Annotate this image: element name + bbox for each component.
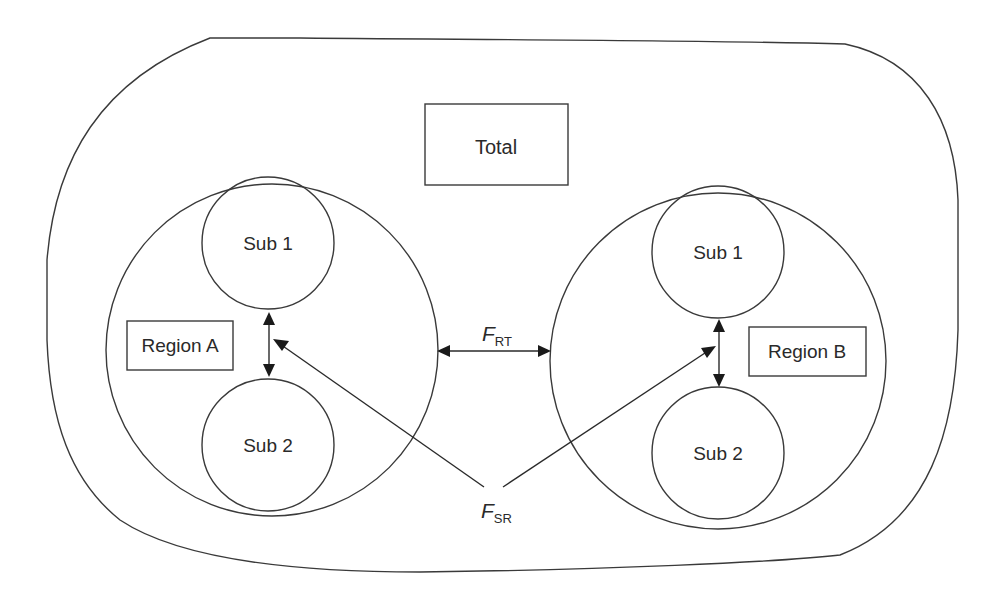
flow-rt-label: FRT [482,322,512,349]
total-label: Total [475,136,517,158]
region-a-sub2-label: Sub 2 [243,435,293,456]
region-a-label: Region A [141,335,218,356]
flow-rt-subscript: RT [495,334,512,349]
arrowhead-right-icon [538,345,551,357]
region-b-sub2-label: Sub 2 [693,443,743,464]
region-a-sub1-label: Sub 1 [243,233,293,254]
region-b-label: Region B [768,341,846,362]
arrowhead-left-icon [437,345,450,357]
arrowhead-up-icon [713,319,725,332]
region-b-sub1-label: Sub 1 [693,242,743,263]
arrowhead-icon [701,346,716,358]
flow-sr: FSR [273,339,716,526]
flow-rt: FRT [437,322,551,357]
arrowhead-down-icon [713,374,725,387]
flow-sr-line-b [503,351,708,487]
arrowhead-up-icon [263,312,275,325]
flow-sr-line-a [280,344,484,487]
flow-sr-label: FSR [481,499,512,526]
region-b: Sub 1 Sub 2 Region B [550,186,886,529]
region-sub-flow-diagram: Total Sub 1 Sub 2 Region A Sub 1 Sub 2 R… [0,0,991,595]
region-a: Sub 1 Sub 2 Region A [106,177,438,516]
flow-sr-subscript: SR [494,511,512,526]
arrowhead-down-icon [263,364,275,377]
